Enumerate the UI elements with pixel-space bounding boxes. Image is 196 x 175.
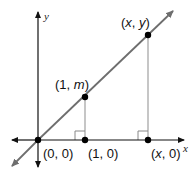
label-one-zero: (1, 0) — [88, 146, 118, 161]
x-axis-label: x — [182, 142, 188, 154]
coordinate-plane: y x (0, 0) (1, 0) (x, 0) (1, m) (x, y) — [0, 0, 196, 175]
point-one-m — [82, 94, 88, 100]
point-one-zero — [82, 137, 88, 143]
label-one-m: (1, m) — [55, 77, 89, 92]
slope-line-negative — [12, 140, 38, 166]
point-x-zero — [145, 137, 151, 143]
label-origin: (0, 0) — [43, 146, 73, 161]
slope-diagram: y x (0, 0) (1, 0) (x, 0) (1, m) (x, y) — [0, 0, 196, 175]
label-x-zero: (x, 0) — [151, 146, 181, 161]
point-origin — [35, 137, 41, 143]
label-x-y: (x, y) — [121, 15, 150, 30]
slope-line — [38, 11, 173, 140]
point-x-y — [145, 32, 151, 38]
y-axis-label: y — [43, 10, 49, 22]
